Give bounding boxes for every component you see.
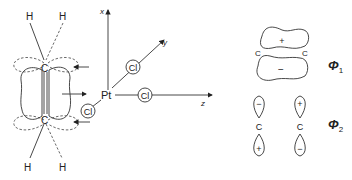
c-atom: C [302, 49, 308, 58]
pt-atom: Pt [101, 89, 111, 101]
cl-ligand: Cl [141, 91, 150, 101]
phi1-orbital: + − C C Φ1 [255, 27, 344, 80]
phi2-orbital: − C + + C − Φ2 [254, 96, 344, 156]
h-atom: H [59, 11, 66, 22]
minus-sign: − [278, 64, 284, 75]
h-atom: H [59, 162, 66, 173]
y-axis-label: y [162, 38, 168, 47]
cl-ligand: Cl [84, 107, 93, 117]
plus-sign: + [297, 99, 302, 109]
minus-sign: − [297, 144, 302, 154]
h-atom: H [24, 162, 31, 173]
minus-sign: − [256, 99, 261, 109]
phi1-label: Φ1 [328, 58, 344, 75]
zeise-salt-orbital-diagram: H H C C H H x y z Pt Cl Cl Cl + − C C Φ1 [0, 0, 352, 180]
platinum-center: x y z Pt Cl Cl Cl [81, 7, 212, 118]
phi2-label: Φ2 [328, 117, 344, 134]
c-atom: C [41, 115, 48, 126]
ethylene-platinum-complex: H H C C H H [14, 11, 90, 173]
plus-sign: + [279, 36, 284, 46]
h-atom: H [26, 11, 33, 22]
c-atom: C [41, 63, 48, 74]
c-atom: C [256, 122, 263, 132]
z-axis-label: z [200, 99, 205, 108]
plus-sign: + [256, 144, 261, 154]
c-atom: C [297, 122, 304, 132]
x-axis-label: x [99, 7, 105, 16]
c-atom: C [255, 49, 261, 58]
cl-ligand: Cl [129, 63, 138, 73]
